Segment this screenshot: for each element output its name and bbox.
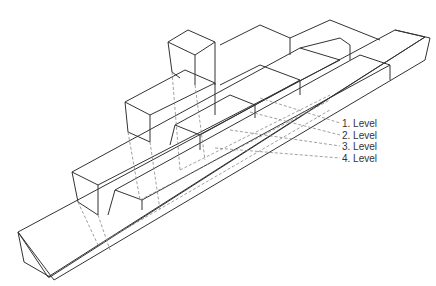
leader-level-2 [250, 112, 340, 135]
label-level-3: 3. Level [342, 141, 377, 152]
level-3-blocks [125, 65, 300, 150]
label-level-2: 2. Level [342, 130, 377, 141]
level-4-block [168, 20, 380, 85]
leader-level-1 [260, 98, 340, 123]
hidden-lines [78, 72, 330, 250]
label-level-4: 4. Level [342, 153, 377, 164]
label-level-1: 1. Level [342, 118, 377, 129]
